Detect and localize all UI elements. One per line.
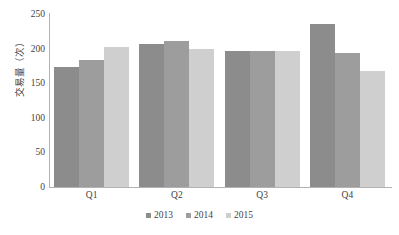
- plot-area: [49, 14, 390, 187]
- y-tick-label: 150: [5, 78, 49, 88]
- bar-group-q4: [310, 14, 385, 187]
- bar-2014-q4: [335, 53, 360, 187]
- x-tick-label-q1: Q1: [62, 190, 122, 200]
- bar-2014-q2: [164, 41, 189, 187]
- bar-chart: 交易量（次） 250200150100500 Q1Q2Q3Q4 20132014…: [0, 0, 399, 235]
- bar-2015-q3: [275, 51, 300, 187]
- legend-label: 2014: [194, 210, 213, 220]
- x-axis-line: [49, 187, 392, 188]
- legend-item-2014[interactable]: 2014: [186, 210, 213, 220]
- bar-2014-q3: [250, 51, 275, 187]
- legend-swatch-icon: [186, 213, 191, 218]
- legend-label: 2013: [154, 210, 173, 220]
- y-tick-label: 200: [5, 44, 49, 54]
- bar-2013-q2: [139, 44, 164, 187]
- bar-2013-q1: [54, 67, 79, 187]
- bar-group-q2: [139, 14, 214, 187]
- y-tick-label: 100: [5, 113, 49, 123]
- x-tick-label-q4: Q4: [317, 190, 377, 200]
- bar-2013-q4: [310, 24, 335, 187]
- y-tick-label: 0: [5, 182, 49, 192]
- bar-2015-q1: [104, 47, 129, 187]
- bar-2013-q3: [225, 51, 250, 187]
- legend-item-2013[interactable]: 2013: [146, 210, 173, 220]
- bar-2014-q1: [79, 60, 104, 187]
- y-tick-label: 250: [5, 9, 49, 19]
- legend-swatch-icon: [146, 213, 151, 218]
- legend-label: 2015: [234, 210, 253, 220]
- bar-group-q1: [54, 14, 129, 187]
- x-tick-label-q3: Q3: [232, 190, 292, 200]
- chart-legend: 201320142015: [0, 210, 399, 220]
- x-tick-label-q2: Q2: [147, 190, 207, 200]
- legend-swatch-icon: [226, 213, 231, 218]
- y-tick-label: 50: [5, 147, 49, 157]
- y-axis-tick-labels: 250200150100500: [0, 0, 49, 235]
- bar-group-q3: [225, 14, 300, 187]
- legend-item-2015[interactable]: 2015: [226, 210, 253, 220]
- bar-2015-q2: [189, 49, 214, 187]
- bar-2015-q4: [360, 71, 385, 187]
